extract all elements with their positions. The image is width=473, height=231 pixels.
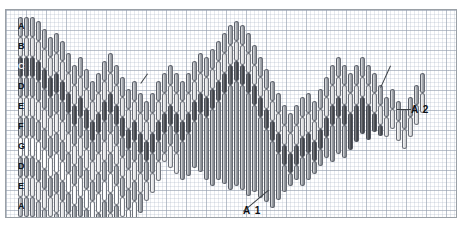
bar-segment [66, 213, 71, 218]
bar-segment [42, 49, 47, 69]
bar-segment [258, 77, 263, 97]
bar-segment [246, 73, 251, 93]
bar-segment [198, 93, 203, 113]
bar-segment [114, 205, 119, 218]
bar-segment [90, 121, 95, 141]
bar-segment [294, 125, 299, 145]
bar-segment [120, 177, 125, 197]
bar-segment [198, 53, 203, 73]
bar-segment [312, 121, 317, 141]
bar-segment [330, 65, 335, 85]
bar-tail-segment [246, 93, 251, 196]
bar-segment [30, 17, 35, 37]
bar-segment [72, 185, 77, 205]
bar-segment [168, 65, 173, 85]
bar-tail-segment [168, 145, 173, 168]
bar-tail-segment [216, 101, 221, 180]
bar-segment [42, 169, 47, 189]
bar-segment [264, 89, 269, 109]
bar-segment [132, 121, 137, 141]
bar-segment [318, 129, 323, 149]
bar-segment [36, 81, 41, 101]
bar-segment [318, 89, 323, 109]
bar-segment [96, 173, 101, 193]
bar-segment [396, 121, 401, 141]
bar-segment [84, 109, 89, 129]
bar-segment [204, 57, 209, 77]
bar-tail-segment [198, 113, 203, 172]
bar-segment [36, 161, 41, 181]
bar-segment [138, 173, 143, 193]
bar-segment [270, 81, 275, 101]
bar-segment [24, 157, 29, 177]
plot-area[interactable]: ABCDEFGDEA [5, 9, 457, 218]
bar-segment [66, 93, 71, 113]
bar-segment [162, 73, 167, 93]
bar-segment [102, 81, 107, 101]
bar-segment [126, 149, 131, 169]
bar-segment [300, 97, 305, 117]
bar-segment [18, 77, 23, 97]
bar-segment [192, 101, 197, 121]
bar-segment [234, 61, 239, 81]
bar-tail-segment [210, 109, 215, 186]
bar-segment [84, 149, 89, 169]
bar-tail-segment [192, 121, 197, 168]
bar-segment [102, 101, 107, 121]
bar-segment [72, 65, 77, 85]
bar-segment [324, 77, 329, 97]
bar-segment [276, 93, 281, 113]
bar-segment [126, 189, 131, 209]
bar-segment [78, 177, 83, 197]
bar-tail-segment [318, 149, 323, 166]
bar-segment [48, 77, 53, 97]
bar-segment [120, 197, 125, 217]
bar-segment [144, 161, 149, 181]
bar-segment [138, 193, 143, 213]
bar-segment [420, 73, 425, 93]
bar-segment [96, 73, 101, 93]
bar-segment [24, 57, 29, 77]
bar-tail-segment [288, 173, 293, 186]
bar-segment [126, 109, 131, 129]
figure-canvas: ABCDEFGDEA A 1A 2 [0, 0, 473, 231]
bar-segment [54, 93, 59, 113]
annotation-label-a2: A 2 [411, 104, 429, 115]
bar-segment [294, 105, 299, 125]
bar-tail-segment [312, 161, 317, 174]
bar-segment [156, 161, 161, 181]
bar-segment [54, 73, 59, 93]
bar-segment [30, 157, 35, 177]
bar-tail-segment [162, 153, 167, 162]
bar-segment [18, 137, 23, 157]
bar-segment [96, 113, 101, 133]
bar-segment [288, 133, 293, 153]
bar-segment [150, 153, 155, 173]
bar-segment [180, 121, 185, 141]
bar-segment [18, 117, 23, 137]
bar-tail-segment [204, 117, 209, 180]
bar-tail-segment [300, 157, 305, 186]
bar-segment [60, 161, 65, 181]
bar-segment [144, 181, 149, 201]
bar-segment [60, 121, 65, 141]
bar-segment [228, 65, 233, 85]
annotation-leader-a2 [397, 109, 411, 110]
bar-segment [354, 85, 359, 105]
bar-segment [48, 97, 53, 117]
bar-segment [42, 29, 47, 49]
bar-segment [384, 117, 389, 137]
bar-tail-segment [348, 113, 353, 150]
bar-segment [102, 121, 107, 141]
bar-segment [24, 197, 29, 217]
bar-segment [72, 165, 77, 185]
bar-segment [90, 101, 95, 121]
bar-segment [204, 77, 209, 97]
bar-segment [42, 149, 47, 169]
bar-segment [228, 45, 233, 65]
bar-segment [402, 109, 407, 129]
bar-segment [282, 145, 287, 165]
bar-segment [174, 73, 179, 93]
bar-segment [30, 57, 35, 77]
bar-segment [120, 97, 125, 117]
